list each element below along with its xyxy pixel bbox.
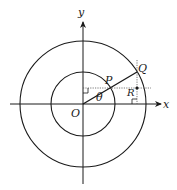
label-Q: Q <box>138 62 147 75</box>
right-angle-marker-left <box>83 88 88 93</box>
diagram-canvas: y x O P Q R θ <box>0 0 177 190</box>
label-P: P <box>104 74 113 87</box>
label-O: O <box>71 107 80 120</box>
x-axis-label: x <box>163 98 170 111</box>
label-theta: θ <box>96 91 103 104</box>
right-angle-marker-right <box>132 99 137 104</box>
label-R: R <box>126 87 135 98</box>
y-axis-label: y <box>77 6 85 19</box>
point-R-dot <box>135 86 138 89</box>
